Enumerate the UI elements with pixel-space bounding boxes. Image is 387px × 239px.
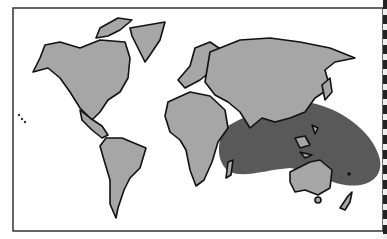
hawaii-islands bbox=[18, 114, 20, 116]
range-marker-dot bbox=[347, 172, 351, 176]
hawaii-islands bbox=[24, 121, 26, 123]
page-edge bbox=[383, 0, 387, 239]
hawaii-islands bbox=[21, 118, 23, 120]
tasmania bbox=[315, 197, 321, 203]
world-map bbox=[0, 0, 387, 239]
